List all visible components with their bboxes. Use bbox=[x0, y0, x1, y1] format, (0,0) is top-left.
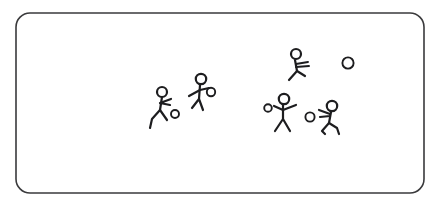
stick-figure-scene bbox=[0, 0, 437, 207]
rounded-rectangle-border bbox=[16, 13, 424, 193]
figure-2-torso bbox=[199, 85, 200, 99]
sketch-canvas: Stick figure soccer sketch bbox=[0, 0, 437, 207]
